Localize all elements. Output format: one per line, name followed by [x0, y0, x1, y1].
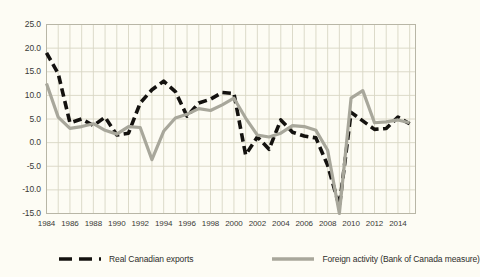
chart-legend: Real Canadian exports Foreign activity (… [0, 246, 436, 272]
dashed-line-icon [58, 254, 102, 264]
legend-item-foreign-activity: Foreign activity (Bank of Canada measure… [271, 254, 479, 264]
legend-label: Foreign activity (Bank of Canada measure… [322, 254, 479, 264]
solid-line-icon [271, 254, 315, 264]
legend-label: Real Canadian exports [109, 254, 193, 264]
legend-item-real-canadian-exports: Real Canadian exports [58, 254, 193, 264]
